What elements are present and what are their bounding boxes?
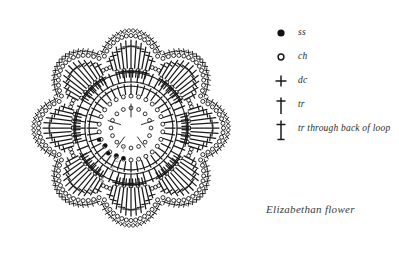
round-number: 4 — [100, 176, 104, 185]
double-crochet-icon — [272, 70, 294, 94]
legend-item-double-crochet: dc — [272, 70, 399, 94]
flower-motif — [32, 29, 231, 228]
round-number: 3 — [109, 165, 114, 174]
round-number: 5 — [88, 186, 92, 195]
figure-caption: Elizabethan flower — [266, 203, 355, 215]
round-number: 1 — [121, 145, 125, 154]
legend-label-treble: tr — [298, 98, 305, 111]
symbol-legend: ss ch dc tr — [272, 22, 399, 142]
legend-label-slip-stitch: ss — [298, 26, 306, 39]
chain-icon — [272, 46, 294, 70]
legend-label-chain: ch — [298, 50, 307, 63]
page-canvas: 12345 ss ch dc — [0, 0, 399, 254]
round-number: 2 — [115, 155, 119, 164]
legend-label-double-crochet: dc — [298, 74, 307, 87]
legend-label-treble-back-loop: tr through back of loop — [298, 122, 390, 135]
crochet-diagram: 12345 — [0, 0, 262, 254]
legend-item-chain: ch — [272, 46, 399, 70]
crochet-diagram-svg: 12345 — [0, 0, 262, 254]
legend-item-treble: tr — [272, 94, 399, 118]
legend-item-slip-stitch: ss — [272, 22, 399, 46]
legend-item-treble-back-loop: tr through back of loop — [272, 118, 399, 142]
treble-icon — [272, 94, 294, 118]
treble-back-loop-icon — [272, 118, 294, 142]
slip-stitch-icon — [272, 22, 294, 46]
